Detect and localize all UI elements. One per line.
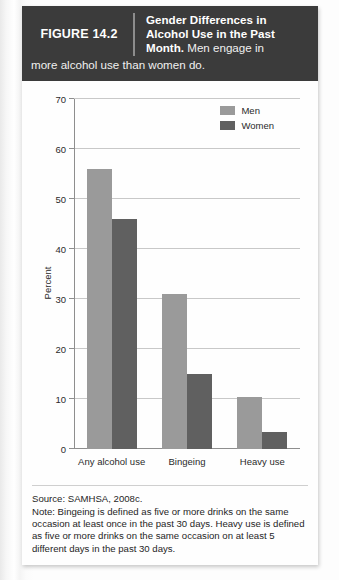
bar-women-bingeing bbox=[187, 374, 212, 449]
bar-men-any-alcohol-use bbox=[87, 169, 112, 449]
y-tick-label: 40 bbox=[55, 244, 66, 255]
bar-chart: Men Women Percent 010203040506070 Any al… bbox=[22, 81, 318, 485]
bar-women-heavy-use bbox=[262, 432, 287, 450]
bar-groups: Any alcohol useBingeingHeavy use bbox=[74, 99, 300, 449]
figure-caption-tail: more alcohol use than women do. bbox=[31, 56, 309, 73]
figure-title: Gender Differences in Alcohol Use in the… bbox=[135, 13, 309, 56]
y-axis-title: Percent bbox=[42, 267, 53, 300]
bar-group: Heavy use bbox=[237, 99, 287, 449]
plot-area: 010203040506070 Any alcohol useBingeingH… bbox=[74, 99, 300, 449]
figure-number-box: FIGURE 14.2 bbox=[31, 13, 135, 56]
footnote-note: Note: Bingeing is defined as five or mor… bbox=[32, 506, 308, 556]
figure-header-row: FIGURE 14.2 Gender Differences in Alcoho… bbox=[31, 13, 309, 56]
y-tick-label: 30 bbox=[55, 294, 66, 305]
figure-card: FIGURE 14.2 Gender Differences in Alcoho… bbox=[22, 6, 318, 565]
x-tick-label: Heavy use bbox=[240, 456, 285, 467]
figure-footnote: Source: SAMHSA, 2008c. Note: Bingeing is… bbox=[32, 485, 308, 555]
x-tick-label: Any alcohol use bbox=[78, 456, 145, 467]
bar-men-heavy-use bbox=[237, 397, 262, 450]
figure-number-label: FIGURE 14.2 bbox=[40, 27, 117, 41]
y-tick-label: 10 bbox=[55, 394, 66, 405]
bar-group: Any alcohol use bbox=[87, 99, 137, 449]
y-tick-label: 50 bbox=[55, 194, 66, 205]
bar-women-any-alcohol-use bbox=[112, 219, 137, 449]
x-tick-label: Bingeing bbox=[168, 456, 205, 467]
figure-header-banner: FIGURE 14.2 Gender Differences in Alcoho… bbox=[22, 6, 318, 81]
y-tick-label: 20 bbox=[55, 344, 66, 355]
footnote-source: Source: SAMHSA, 2008c. bbox=[32, 493, 308, 505]
y-tick-label: 70 bbox=[55, 94, 66, 105]
y-tick-label: 60 bbox=[55, 144, 66, 155]
y-tick-label: 0 bbox=[61, 444, 66, 455]
bar-group: Bingeing bbox=[162, 99, 212, 449]
figure-title-regular: Men engage in bbox=[184, 41, 264, 54]
bar-men-bingeing bbox=[162, 294, 187, 449]
